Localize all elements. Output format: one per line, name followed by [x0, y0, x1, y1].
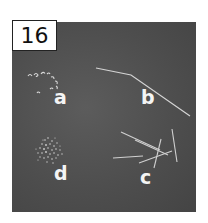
panel-label-a: a [54, 88, 67, 107]
panel-d-granules [35, 137, 62, 164]
panel-c-rods [113, 129, 177, 168]
panel-a-forms [28, 72, 57, 93]
panel-label-b: b [141, 88, 155, 107]
micrograph-structures [0, 0, 208, 223]
panel-label-d: d [54, 164, 68, 183]
panel-label-c: c [140, 168, 151, 187]
